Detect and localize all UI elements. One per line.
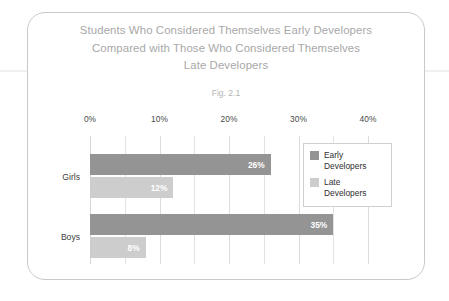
legend-item-late-developers[interactable]: Late Developers bbox=[310, 177, 386, 198]
bar-value-label: 26% bbox=[248, 160, 265, 170]
legend-swatch-icon-early bbox=[310, 151, 319, 160]
x-tick-label: 40% bbox=[360, 114, 377, 124]
legend-label-late: Late Developers bbox=[324, 177, 366, 198]
x-tick-label: 0% bbox=[84, 114, 96, 124]
x-tick-label: 10% bbox=[151, 114, 168, 124]
chart-title-line-2: Compared with Those Who Considered Thems… bbox=[40, 40, 412, 58]
bar-girls-late: 12% bbox=[90, 177, 173, 198]
bar-boys-late: 8% bbox=[90, 237, 146, 258]
chart-title-line-1: Students Who Considered Themselves Early… bbox=[40, 22, 412, 40]
legend-item-early-developers[interactable]: Early Developers bbox=[310, 150, 386, 171]
category-label-girls: Girls bbox=[62, 172, 80, 182]
legend-label-early: Early Developers bbox=[324, 150, 366, 171]
category-label-boys: Boys bbox=[61, 232, 80, 242]
legend-swatch-icon-late bbox=[310, 178, 319, 187]
chart-legend: Early Developers Late Developers bbox=[303, 143, 392, 207]
x-tick-label: 20% bbox=[221, 114, 238, 124]
x-tick-label: 30% bbox=[290, 114, 307, 124]
bar-boys-early: 35% bbox=[90, 214, 333, 235]
bar-value-label: 8% bbox=[127, 243, 139, 253]
bar-girls-early: 26% bbox=[90, 154, 271, 175]
figure-caption: Fig. 2.1 bbox=[40, 88, 412, 98]
chart-title-line-3: Late Developers bbox=[40, 57, 412, 75]
bar-value-label: 12% bbox=[151, 183, 168, 193]
bar-value-label: 35% bbox=[310, 220, 327, 230]
gridline-major bbox=[299, 136, 300, 264]
chart-title: Students Who Considered Themselves Early… bbox=[40, 22, 412, 75]
